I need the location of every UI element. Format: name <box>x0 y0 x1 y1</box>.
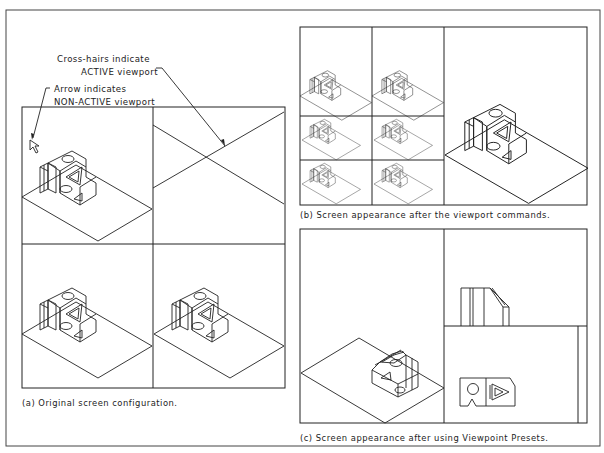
isometric-part-b-large <box>445 104 588 203</box>
front-view-part <box>461 288 509 326</box>
panel-a: Cross-hairs indicate ACTIVE viewport Arr… <box>22 54 285 408</box>
panel-c-caption: (c) Screen appearance after using Viewpo… <box>300 433 548 443</box>
panel-a-caption: (a) Original screen configuration. <box>22 398 177 408</box>
arrow-cursor-icon <box>30 140 39 153</box>
top-view-part <box>460 378 515 406</box>
isometric-part-a-bottom-left <box>22 288 152 378</box>
panel-c: (c) Screen appearance after using Viewpo… <box>300 229 587 443</box>
arrow-annotation-line2: NON-ACTIVE viewport <box>54 97 155 107</box>
arrow-annotation-line1: Arrow indicates <box>54 84 127 94</box>
crosshairs-annotation-line2: ACTIVE viewport <box>81 67 158 77</box>
isometric-part-b-4 <box>374 119 433 160</box>
isometric-part-c-rotated <box>301 338 444 423</box>
isometric-part-b-3 <box>302 119 361 160</box>
isometric-part-b-2 <box>372 71 444 121</box>
panel-b-caption: (b) Screen appearance after the viewport… <box>300 210 550 220</box>
arrow-leader-line <box>33 88 50 138</box>
crosshairs-icon <box>153 112 284 204</box>
viewport-configuration-figure: Cross-hairs indicate ACTIVE viewport Arr… <box>0 0 604 453</box>
isometric-part-b-5 <box>302 163 361 204</box>
isometric-part-b-6 <box>374 163 433 204</box>
crosshairs-annotation-line1: Cross-hairs indicate <box>57 54 150 64</box>
isometric-part-a-top-left <box>22 151 152 241</box>
isometric-part-b-1 <box>300 71 372 121</box>
isometric-part-a-bottom-right <box>154 288 284 378</box>
panel-b: (b) Screen appearance after the viewport… <box>300 27 588 220</box>
